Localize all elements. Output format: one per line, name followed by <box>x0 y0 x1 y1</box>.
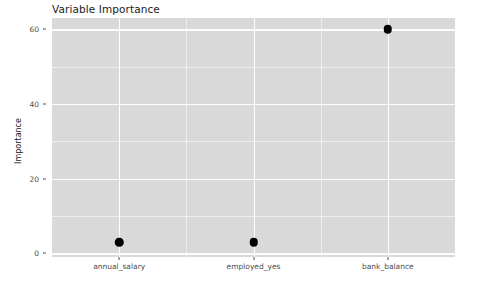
variable-importance-chart: Variable Importance 0204060 Importance a… <box>0 0 491 282</box>
x-tick-mark <box>119 257 120 260</box>
gridline-major-vertical <box>388 18 389 257</box>
page-title: Variable Importance <box>52 3 160 15</box>
y-tick-label: 60 <box>29 25 39 34</box>
data-point <box>384 25 393 34</box>
y-tick-label: 0 <box>34 249 39 258</box>
plot-panel <box>52 18 455 257</box>
x-tick-mark <box>253 257 254 260</box>
y-axis-title: Importance <box>14 118 23 164</box>
y-tick-label: 20 <box>29 174 39 183</box>
y-tick-label: 40 <box>29 99 39 108</box>
x-tick-mark <box>387 257 388 260</box>
gridline-minor-vertical <box>186 18 187 257</box>
data-point <box>249 238 258 247</box>
gridline-minor-vertical <box>321 18 322 257</box>
gridline-major-vertical <box>254 18 255 257</box>
y-tick-mark <box>43 253 46 254</box>
x-tick-label: annual_salary <box>93 262 145 271</box>
data-point <box>115 238 124 247</box>
y-tick-mark <box>43 29 46 30</box>
y-axis: 0204060 <box>0 18 46 257</box>
x-tick-label: bank_balance <box>362 262 414 271</box>
gridline-major-vertical <box>119 18 120 257</box>
x-tick-label: employed_yes <box>227 262 281 271</box>
y-tick-mark <box>43 103 46 104</box>
y-tick-mark <box>43 178 46 179</box>
